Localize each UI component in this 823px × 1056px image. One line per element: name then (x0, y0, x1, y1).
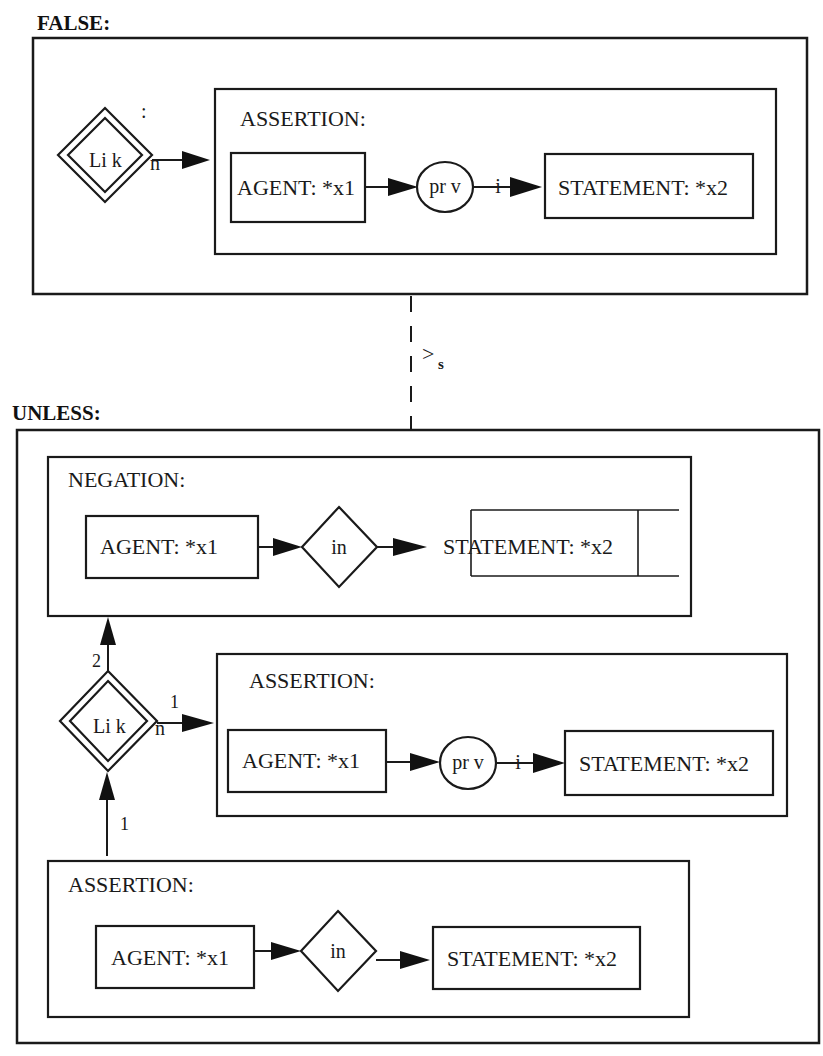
unless-section-title: UNLESS: (12, 401, 101, 425)
edge-up-label: 2 (92, 651, 101, 671)
edge-right-label: 1 (170, 692, 179, 712)
link-node-top-mark: : (141, 100, 147, 122)
unless-link-node-label-right: n (155, 717, 165, 739)
edge-bottom-label: 1 (120, 814, 129, 834)
false-statement-label: STATEMENT: *x2 (558, 175, 728, 200)
connector-subscript: s (438, 356, 444, 372)
assertion1-agent-label: AGENT: *x1 (242, 748, 360, 773)
assertion1-title: ASSERTION: (249, 668, 375, 693)
link-node-label: Li k (89, 149, 122, 171)
connector-label: > (422, 341, 434, 366)
assertion2-statement-label: STATEMENT: *x2 (447, 946, 617, 971)
arrowhead-icon (100, 617, 116, 645)
negation-statement-label: STATEMENT: *x2 (443, 534, 613, 559)
arrowhead-icon (182, 151, 210, 169)
assertion2-agent-label: AGENT: *x1 (111, 945, 229, 970)
assertion1-relation-label: pr v (452, 751, 484, 774)
negation-agent-label: AGENT: *x1 (100, 534, 218, 559)
arrowhead-icon (99, 772, 115, 800)
unless-link-node: Li k n (60, 671, 165, 771)
false-assertion-title: ASSERTION: (240, 106, 366, 131)
diagram-canvas: FALSE: Li k n : ASSERTION: AGENT: *x1 pr… (0, 0, 823, 1056)
negation-in-label: in (331, 536, 347, 558)
assertion1-relation-tail-label: i (515, 751, 521, 773)
false-section-title: FALSE: (37, 11, 110, 35)
assertion1-statement-label: STATEMENT: *x2 (579, 751, 749, 776)
false-relation-tail-label: i (495, 175, 501, 197)
arrowhead-icon (182, 714, 214, 732)
negation-title: NEGATION: (68, 467, 185, 492)
link-node-label-right: n (150, 152, 160, 174)
false-agent-label: AGENT: *x1 (237, 175, 355, 200)
false-link-node: Li k n : (58, 100, 160, 202)
assertion2-title: ASSERTION: (68, 872, 194, 897)
false-relation-label: pr v (429, 175, 461, 198)
unless-link-node-label: Li k (93, 715, 126, 737)
assertion2-in-label: in (330, 940, 346, 962)
